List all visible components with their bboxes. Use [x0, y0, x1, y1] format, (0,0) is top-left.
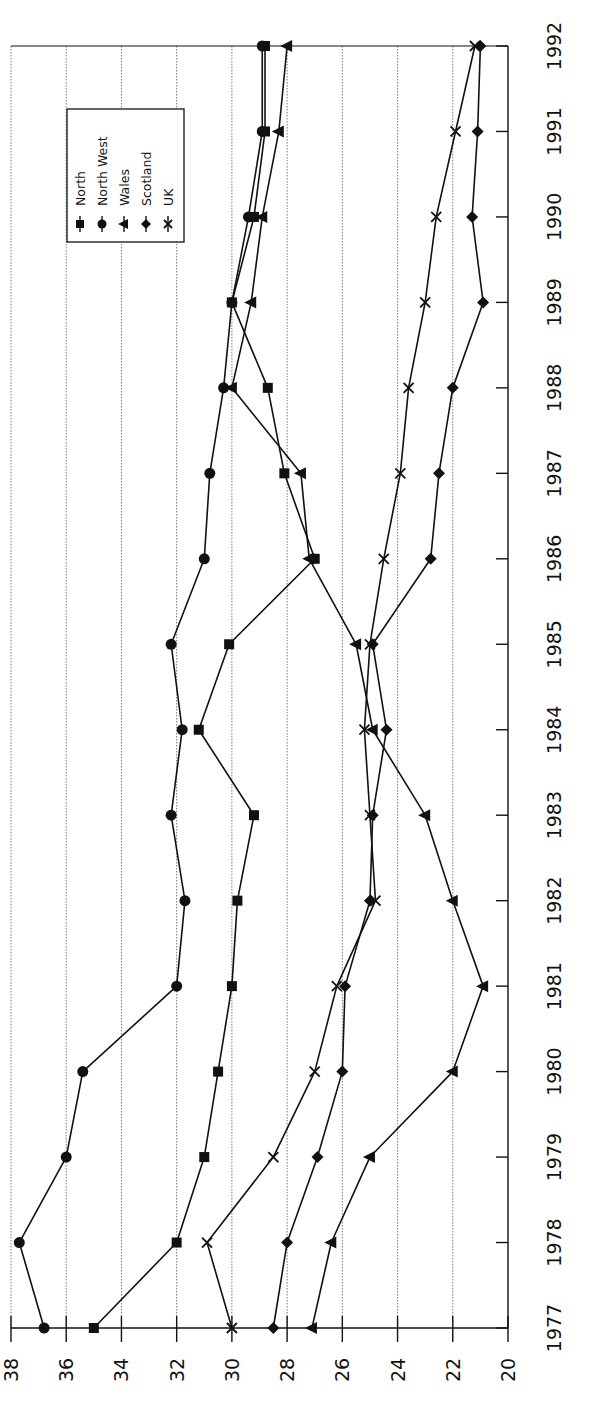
year-tick-label: 1989	[543, 278, 565, 326]
year-tick-label: 1985	[543, 620, 565, 668]
year-tick-label: 1982	[543, 876, 565, 924]
square-marker-icon	[232, 896, 242, 906]
value-tick-label: 32	[166, 1358, 188, 1382]
circle-marker-icon	[77, 1066, 88, 1077]
value-tick-label: 22	[442, 1358, 464, 1382]
circle-marker-icon	[257, 126, 268, 137]
series-scotland	[267, 40, 489, 1334]
square-marker-icon	[172, 1238, 182, 1248]
diamond-marker-icon	[367, 638, 379, 650]
circle-marker-icon	[179, 895, 190, 906]
circle-marker-icon	[204, 468, 215, 479]
diamond-marker-icon	[311, 1151, 323, 1163]
value-tick-label: 38	[0, 1358, 22, 1382]
series-line	[207, 46, 475, 1328]
square-marker-icon	[279, 468, 289, 478]
year-tick-label: 1990	[543, 193, 565, 241]
diamond-marker-icon	[367, 809, 379, 821]
legend-label: Wales	[117, 169, 132, 206]
year-tick-label: 1983	[543, 791, 565, 839]
value-tick-label: 36	[55, 1358, 77, 1382]
triangle-marker-icon	[446, 1066, 458, 1078]
year-tick-label: 1987	[543, 449, 565, 497]
circle-marker-icon	[166, 810, 177, 821]
triangle-marker-icon	[294, 467, 306, 479]
circle-marker-icon	[61, 1152, 72, 1163]
diamond-marker-icon	[466, 211, 478, 223]
diamond-marker-icon	[425, 553, 437, 565]
value-tick-label: 20	[497, 1358, 519, 1382]
legend-label: UK	[161, 188, 176, 206]
diamond-marker-icon	[447, 382, 459, 394]
square-marker-icon	[213, 1067, 223, 1077]
diamond-marker-icon	[472, 125, 484, 137]
diamond-marker-icon	[433, 467, 445, 479]
legend-label: North West	[95, 136, 110, 206]
value-tick-label: 30	[221, 1358, 243, 1382]
square-marker-icon	[263, 383, 273, 393]
square-marker-icon	[76, 220, 84, 228]
x-marker-icon	[268, 1152, 278, 1162]
line-chart: 20222426283032343638 1977197819791980198…	[0, 0, 593, 1417]
triangle-marker-icon	[418, 809, 430, 821]
year-tick-label: 1980	[543, 1047, 565, 1095]
triangle-marker-icon	[363, 1151, 375, 1163]
year-tick-label: 1981	[543, 962, 565, 1010]
circle-marker-icon	[171, 981, 182, 992]
square-marker-icon	[227, 981, 237, 991]
series-line	[273, 46, 483, 1328]
diamond-marker-icon	[336, 1066, 348, 1078]
diamond-marker-icon	[381, 724, 393, 736]
year-tick-label: 1992	[543, 22, 565, 70]
square-marker-icon	[199, 1152, 209, 1162]
year-tick-label: 1978	[543, 1218, 565, 1266]
square-marker-icon	[194, 725, 204, 735]
value-tick-label: 26	[331, 1358, 353, 1382]
circle-marker-icon	[166, 639, 177, 650]
value-axis: 20222426283032343638	[0, 1316, 519, 1382]
diamond-marker-icon	[281, 1237, 293, 1249]
year-tick-label: 1988	[543, 364, 565, 412]
year-tick-label: 1979	[543, 1133, 565, 1181]
triangle-marker-icon	[349, 638, 361, 650]
square-marker-icon	[249, 810, 259, 820]
year-axis: 1977197819791980198119821983198419851986…	[496, 22, 565, 1352]
circle-marker-icon	[177, 724, 188, 735]
circle-marker-icon	[226, 297, 237, 308]
year-tick-label: 1984	[543, 706, 565, 754]
value-tick-label: 24	[387, 1358, 409, 1382]
year-tick-label: 1986	[543, 535, 565, 583]
circle-marker-icon	[14, 1237, 25, 1248]
x-marker-icon	[310, 1067, 320, 1077]
legend-label: Scotland	[139, 152, 154, 206]
value-tick-label: 28	[276, 1358, 298, 1382]
diamond-marker-icon	[477, 296, 489, 308]
legend: NorthNorth WestWalesScotlandUK	[67, 109, 184, 242]
value-tick-label: 34	[110, 1358, 132, 1382]
x-marker-icon	[202, 1238, 212, 1248]
circle-marker-icon	[98, 220, 107, 229]
circle-marker-icon	[243, 211, 254, 222]
year-tick-label: 1991	[543, 107, 565, 155]
series-wales	[225, 40, 488, 1334]
year-tick-label: 1977	[543, 1304, 565, 1352]
series-line	[232, 46, 483, 1328]
circle-marker-icon	[199, 553, 210, 564]
series-uk	[202, 41, 480, 1333]
square-marker-icon	[224, 639, 234, 649]
legend-label: North	[73, 171, 88, 206]
